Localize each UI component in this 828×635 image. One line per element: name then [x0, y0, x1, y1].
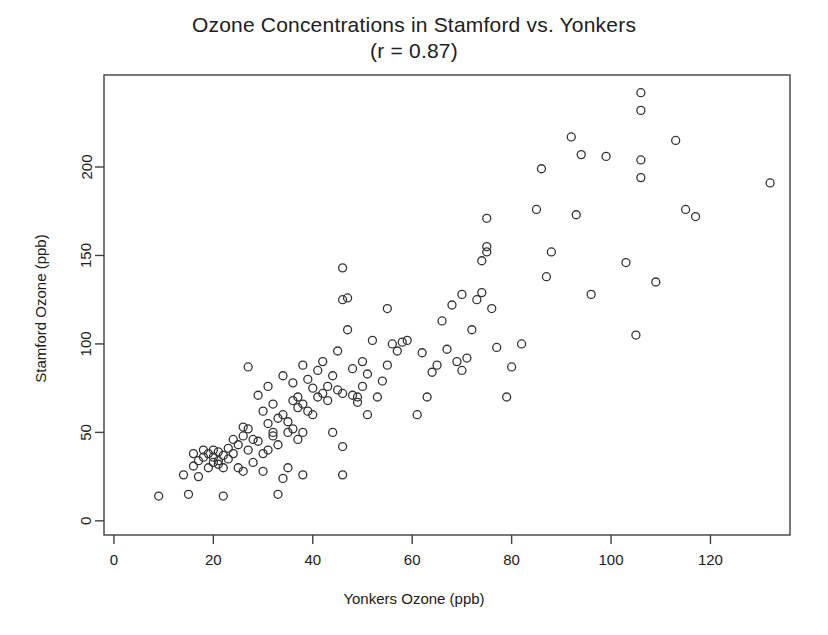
- y-axis-tick-label: 0: [78, 517, 95, 525]
- x-axis-tick-label: 40: [304, 551, 321, 568]
- y-axis-tick-label: 200: [78, 154, 95, 179]
- x-axis-title: Yonkers Ozone (ppb): [0, 590, 828, 607]
- plot-box-frame: [104, 75, 790, 535]
- y-axis-tick-label: 150: [78, 243, 95, 268]
- x-axis-tick-label: 0: [110, 551, 118, 568]
- x-axis-tick-label: 120: [698, 551, 723, 568]
- y-axis-tick-label: 100: [78, 331, 95, 356]
- x-axis-tick-label: 80: [503, 551, 520, 568]
- x-axis-tick-label: 100: [599, 551, 624, 568]
- x-axis-tick-label: 60: [404, 551, 421, 568]
- plot-canvas: 020406080100120050100150200: [0, 0, 828, 635]
- y-axis-title: Stamford Ozone (ppb): [32, 159, 49, 459]
- y-axis-tick-label: 50: [78, 424, 95, 441]
- scatter-plot-figure: Ozone Concentrations in Stamford vs. Yon…: [0, 0, 828, 635]
- x-axis-tick-label: 20: [205, 551, 222, 568]
